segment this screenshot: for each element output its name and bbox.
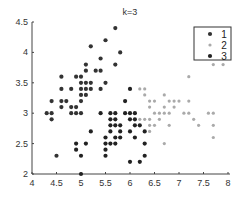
x-tick-label: 7 <box>176 178 181 188</box>
data-point <box>128 111 132 115</box>
data-point <box>108 117 112 121</box>
data-point <box>153 112 156 115</box>
data-point <box>163 106 166 109</box>
data-point <box>64 99 68 103</box>
data-point <box>99 56 103 60</box>
data-point <box>103 81 107 85</box>
data-point <box>148 118 151 121</box>
y-tick-label: 4 <box>23 47 28 57</box>
data-point <box>207 112 210 115</box>
series-2 <box>138 63 225 145</box>
data-point <box>108 111 112 115</box>
data-point <box>133 123 137 127</box>
data-point <box>84 69 88 73</box>
data-point <box>103 38 107 42</box>
data-point <box>99 69 103 73</box>
data-point <box>168 124 171 127</box>
data-point <box>138 87 141 90</box>
data-point <box>69 105 73 109</box>
data-point <box>74 148 78 152</box>
data-point <box>133 135 137 139</box>
x-tick-label: 6.5 <box>148 178 161 188</box>
data-point <box>74 142 78 146</box>
data-point <box>89 44 93 48</box>
data-point <box>133 111 137 115</box>
data-point <box>99 87 103 91</box>
data-point <box>187 112 190 115</box>
data-point <box>79 154 83 158</box>
x-tick-label: 5.5 <box>99 178 112 188</box>
data-point <box>113 26 117 30</box>
data-point <box>168 112 171 115</box>
data-point <box>138 118 141 121</box>
y-tick-label: 2 <box>23 169 28 179</box>
data-point <box>123 111 127 115</box>
data-point <box>143 142 147 146</box>
data-point <box>163 93 166 96</box>
data-point <box>113 135 117 139</box>
data-point <box>113 142 117 146</box>
data-point <box>148 99 151 102</box>
data-point <box>113 123 117 127</box>
data-point <box>84 62 88 66</box>
data-point <box>113 117 117 121</box>
data-point <box>79 111 83 115</box>
data-point <box>138 123 142 127</box>
data-point <box>148 124 151 127</box>
data-point <box>79 99 83 103</box>
legend-label: 2 <box>221 40 227 51</box>
scatter-chart: k=3 44.555.566.577.5822.533.544.5 123 <box>0 0 250 199</box>
data-point <box>118 135 122 139</box>
data-point <box>128 160 132 164</box>
x-tick-label: 6 <box>127 178 132 188</box>
legend-marker-icon <box>208 32 212 36</box>
data-point <box>182 112 185 115</box>
data-point <box>153 124 156 127</box>
data-point <box>123 99 127 103</box>
data-point <box>94 69 98 73</box>
data-point <box>177 99 180 102</box>
data-point <box>84 81 88 85</box>
data-point <box>79 81 83 85</box>
y-tick-label: 2.5 <box>15 139 28 149</box>
data-point <box>173 106 176 109</box>
data-point <box>128 87 132 91</box>
data-point <box>79 172 83 176</box>
data-point <box>74 105 78 109</box>
data-point <box>89 81 93 85</box>
data-point <box>187 75 190 78</box>
chart-title: k=3 <box>123 7 138 17</box>
data-point <box>168 99 171 102</box>
data-point <box>108 129 112 133</box>
data-point <box>59 99 63 103</box>
data-point <box>45 111 49 115</box>
data-point <box>173 99 176 102</box>
data-point <box>192 118 195 121</box>
data-point <box>69 111 73 115</box>
data-point <box>143 154 147 158</box>
data-point <box>138 160 142 164</box>
x-tick-label: 4 <box>29 178 34 188</box>
data-point <box>79 75 83 79</box>
data-point <box>133 117 137 121</box>
data-point <box>148 130 151 133</box>
data-point <box>143 118 146 121</box>
data-point <box>108 142 112 146</box>
data-point <box>197 124 200 127</box>
data-point <box>153 99 156 102</box>
y-tick-label: 3 <box>23 108 28 118</box>
data-point <box>222 63 225 66</box>
data-point <box>128 117 132 121</box>
data-point <box>163 142 166 145</box>
data-point <box>158 112 161 115</box>
data-point <box>79 93 83 97</box>
data-point <box>50 117 54 121</box>
data-point <box>74 75 78 79</box>
legend: 123 <box>194 27 231 62</box>
data-point <box>108 123 112 127</box>
x-tick-label: 4.5 <box>50 178 63 188</box>
x-tick-label: 8 <box>225 178 230 188</box>
data-point <box>187 99 190 102</box>
data-point <box>113 62 117 66</box>
data-point <box>84 87 88 91</box>
